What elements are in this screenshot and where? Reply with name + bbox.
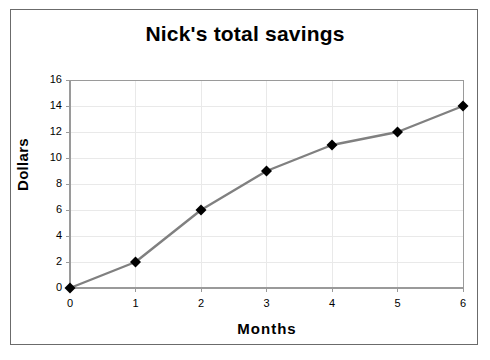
y-tick-label: 8	[32, 177, 62, 189]
x-tick-label: 5	[383, 297, 413, 309]
y-tick-label: 0	[32, 281, 62, 293]
x-tick-label: 2	[186, 297, 216, 309]
y-tick-label: 2	[32, 255, 62, 267]
y-tick-label: 10	[32, 151, 62, 163]
y-tick-label: 16	[32, 73, 62, 85]
x-tick-label: 4	[317, 297, 347, 309]
y-tick-label: 4	[32, 229, 62, 241]
x-tick-label: 0	[55, 297, 85, 309]
y-tick-label: 14	[32, 99, 62, 111]
y-tick-label: 12	[32, 125, 62, 137]
axis-lines	[66, 80, 463, 292]
data-point-marker	[458, 101, 469, 112]
data-point-marker	[327, 140, 338, 151]
grid-lines	[70, 80, 463, 288]
data-point-marker	[261, 166, 272, 177]
x-tick-label: 1	[121, 297, 151, 309]
data-point-marker	[392, 127, 403, 138]
x-tick-label: 3	[252, 297, 282, 309]
y-tick-label: 6	[32, 203, 62, 215]
x-tick-label: 6	[448, 297, 478, 309]
data-point-marker	[65, 283, 76, 294]
